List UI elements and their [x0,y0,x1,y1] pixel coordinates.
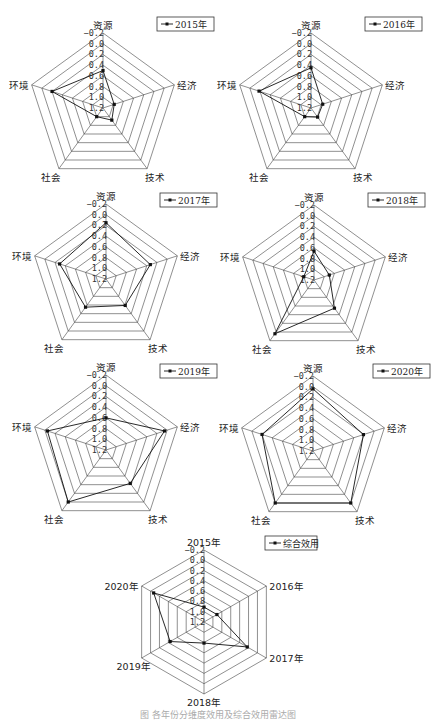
category-label: 社会 [41,172,61,183]
legend-label: 2019年 [178,366,210,377]
tick-label: 1.0 [92,434,107,444]
tick-label: 0.4 [300,232,315,242]
legend: 2017年 [160,193,217,207]
category-label: 资源 [93,20,113,31]
tick-label: 0.8 [92,424,107,434]
tick-label: 1.0 [89,92,104,102]
radar-chart-2: −0.20.00.20.40.60.81.01.2资源经济技术社会环境2017年 [12,191,217,354]
axis-spoke [204,622,266,658]
category-label: 环境 [12,251,32,262]
data-point [104,221,107,224]
tick-label: 0.4 [92,402,107,412]
data-point [84,306,87,309]
data-point [67,500,70,503]
tick-label: 0.2 [92,391,107,401]
tick-label: 0.6 [190,586,205,596]
category-label: 2020年 [104,581,138,592]
data-point [273,332,276,335]
tick-label: 1.2 [297,103,312,113]
legend-label: 2018年 [386,195,418,206]
legend-marker-icon [274,542,277,545]
tick-label: 0.0 [297,39,312,49]
tick-label: 0.0 [92,381,107,391]
data-point [202,641,205,644]
radar-chart-6: −0.20.00.20.40.60.81.01.22015年2016年2017年… [104,536,319,708]
category-label: 社会 [251,515,271,526]
data-point [129,482,132,485]
category-label: 2017年 [269,653,303,664]
data-point [302,275,305,278]
data-point [309,66,312,69]
data-point [316,116,319,119]
series-line [259,68,323,117]
legend: 2015年 [157,17,214,31]
legend-label: 2020年 [391,366,423,377]
tick-label: 0.2 [190,566,205,576]
tick-label: 0.4 [89,60,104,70]
legend: 2019年 [160,364,217,378]
category-label: 社会 [44,343,64,354]
legend-marker-icon [374,23,377,26]
tick-label: 0.4 [299,403,314,413]
radar-chart-4: −0.20.00.20.40.60.81.01.2资源经济技术社会环境2019年 [12,362,217,525]
data-point [321,103,324,106]
tick-label: 1.2 [92,445,107,455]
tick-label: 0.0 [300,211,315,221]
data-point [257,90,260,93]
data-point [58,262,61,265]
tick-label: 0.0 [89,39,104,49]
tick-label: 0.0 [190,555,205,565]
data-point [349,501,352,504]
tick-label: 1.2 [89,103,104,113]
axis-spoke [103,108,147,169]
legend: 综合效用 [265,536,319,550]
tick-label: 0.2 [297,49,312,59]
category-label: 环境 [9,80,29,91]
axis-spoke [106,450,150,511]
category-label: 技术 [353,172,373,183]
axis-spoke [314,280,358,341]
tick-label: 0.6 [299,414,314,424]
legend-label: 综合效用 [283,538,319,549]
category-label: 2015年 [187,537,221,548]
tick-label: 0.8 [297,82,312,92]
category-label: 环境 [12,422,32,433]
data-point [362,433,365,436]
radar-chart-5: −0.20.00.20.40.60.81.01.2资源经济技术社会环境2020年 [219,363,430,526]
data-point [169,640,172,643]
tick-label: 1.0 [299,435,314,445]
category-label: 社会 [249,172,269,183]
data-point [152,591,155,594]
category-label: 经济 [180,422,200,433]
axis-spoke [62,279,106,340]
data-point [163,429,166,432]
category-label: 2019年 [117,661,151,672]
axis-spoke [106,427,177,450]
category-label: 2018年 [187,697,221,708]
axis-spoke [313,428,384,451]
tick-label: 0.2 [299,392,314,402]
radar-figure: −0.20.00.20.40.60.81.01.2资源经济技术社会环境2015年… [0,0,436,720]
data-point [46,429,49,432]
data-point [104,416,107,419]
tick-label: 1.0 [92,263,107,273]
tick-label: 0.8 [89,82,104,92]
data-point [260,433,263,436]
tick-label: 0.4 [190,576,205,586]
legend: 2016年 [365,17,422,31]
axis-spoke [106,279,150,340]
category-label: 经济 [387,423,407,434]
data-point [50,90,53,93]
category-label: 社会 [252,344,272,355]
category-label: 资源 [304,192,324,203]
data-point [311,387,314,390]
radar-chart-1: −0.20.00.20.40.60.81.01.2资源经济技术社会环境2016年 [217,17,422,183]
axis-spoke [204,586,266,622]
category-label: 经济 [388,252,408,263]
figure-caption: 图 各年份分维度效用及综合效用雷达图 [0,708,436,720]
category-label: 资源 [96,191,116,202]
legend: 2020年 [373,364,430,378]
category-label: 社会 [44,514,64,525]
legend-marker-icon [169,199,172,202]
data-point [312,249,315,252]
